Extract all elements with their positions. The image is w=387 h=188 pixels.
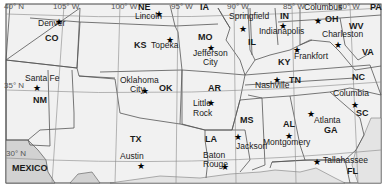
capital-label: City (203, 58, 218, 67)
capital-star-icon: ★ (273, 76, 281, 85)
capital-star-icon: ★ (55, 18, 63, 27)
capital-label: Springfield (229, 12, 269, 21)
capital-star-icon: ★ (234, 133, 242, 142)
state-label: TN (289, 76, 301, 85)
state-label: GA (324, 126, 338, 135)
capital-label: Santa Fe (25, 74, 60, 83)
state-label: KY (278, 58, 291, 67)
state-label: KS (134, 41, 147, 50)
state-label: IN (280, 12, 289, 21)
capital-label: Rock (193, 109, 212, 118)
capital-star-icon: ★ (239, 25, 247, 34)
state-label: TX (130, 135, 142, 144)
grid-label: 105° W (53, 3, 79, 11)
state-label: OK (159, 84, 173, 93)
grid-label: 35° N (4, 82, 24, 90)
capital-star-icon: ★ (293, 46, 301, 55)
grid-label: 95° W (171, 3, 193, 11)
capital-label: Columbia (333, 89, 369, 98)
capital-star-icon: ★ (207, 44, 215, 53)
capital-star-icon: ★ (137, 162, 145, 171)
state-label: NM (33, 96, 47, 105)
state-label: SC (356, 109, 369, 118)
capital-label: Topeka (151, 41, 178, 50)
state-label: OH (325, 15, 339, 24)
state-label: AL (283, 120, 295, 129)
capital-star-icon: ★ (285, 132, 293, 141)
state-label: LA (205, 135, 217, 144)
capital-star-icon: ★ (279, 22, 287, 31)
grid-label: 90° W (227, 3, 249, 11)
capital-star-icon: ★ (313, 158, 321, 167)
grid-label: 100° W (111, 3, 137, 11)
grid-label: 40° N (4, 3, 24, 11)
capital-star-icon: ★ (141, 87, 149, 96)
capital-star-icon: ★ (33, 84, 41, 93)
capital-star-icon: ★ (334, 41, 342, 50)
state-label: MS (240, 116, 254, 125)
state-label: IA (200, 3, 209, 12)
state-label: IL (248, 38, 256, 47)
state-label: CO (45, 34, 59, 43)
grid-label: 85° W (283, 3, 305, 11)
capital-star-icon: ★ (166, 36, 174, 45)
capital-label: Atlanta (314, 116, 340, 125)
country-label: MEXICO (12, 164, 48, 173)
state-label: PA (370, 3, 382, 12)
capital-label: Columbus (304, 3, 342, 12)
capital-star-icon: ★ (155, 10, 163, 19)
capital-star-icon: ★ (207, 99, 215, 108)
capital-star-icon: ★ (221, 163, 229, 172)
capital-star-icon: ★ (351, 101, 359, 110)
state-label: FL (347, 167, 358, 176)
capital-label: Tallahassee (323, 156, 368, 165)
capital-star-icon: ★ (314, 17, 322, 26)
capital-label: Austin (120, 152, 144, 161)
capital-star-icon: ★ (307, 110, 315, 119)
state-label: NC (352, 73, 365, 82)
grid-label: 30° N (6, 150, 26, 158)
state-label: MO (198, 33, 213, 42)
state-label: VA (362, 48, 374, 57)
state-label: AR (208, 84, 221, 93)
capital-label: Charleston (322, 30, 363, 39)
